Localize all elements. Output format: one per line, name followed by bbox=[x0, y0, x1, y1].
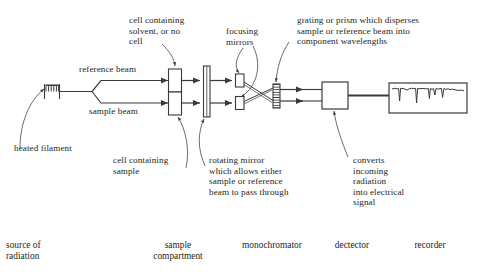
leader-cell-solvent bbox=[162, 44, 175, 66]
rotating-mirror bbox=[204, 66, 211, 117]
leader-detector bbox=[334, 111, 348, 157]
leader-cell-sample bbox=[178, 117, 188, 168]
ir-spectrometer-diagram: cell containing solvent, or no cell focu… bbox=[0, 0, 481, 278]
label-heated-filament: heated filament bbox=[14, 143, 72, 154]
reference-cell bbox=[169, 69, 182, 92]
focusing-mirror-upper bbox=[236, 74, 245, 87]
leader-focusing-mirrors-upper bbox=[236, 48, 243, 73]
source-beam-path bbox=[60, 81, 136, 104]
leader-rotating-mirror bbox=[199, 119, 205, 166]
label-rotating-mirror: rotating mirror which allows either samp… bbox=[209, 155, 289, 197]
grating-prism bbox=[273, 84, 280, 108]
beams-to-focusing-mirrors bbox=[210, 81, 232, 104]
detector-box bbox=[322, 82, 348, 109]
label-grating-or-prism: grating or prism which disperses sample … bbox=[297, 15, 419, 47]
recorder-chart bbox=[389, 83, 467, 113]
converging-beams-to-grating bbox=[244, 82, 273, 104]
category-sample-compartment: sample compartment bbox=[128, 240, 228, 262]
label-cell-containing-sample: cell containing sample bbox=[113, 155, 168, 176]
heated-filament-source bbox=[45, 84, 60, 99]
dispersed-beams-to-detector bbox=[280, 90, 322, 102]
leader-heated-filament bbox=[20, 89, 44, 148]
category-source-of-radiation: source of radiation bbox=[6, 240, 86, 262]
leader-grating bbox=[276, 42, 289, 82]
category-detector: dectector bbox=[320, 240, 384, 251]
label-reference-beam: reference beam bbox=[79, 64, 136, 75]
label-sample-beam: sample beam bbox=[89, 106, 138, 117]
category-recorder: recorder bbox=[398, 240, 462, 251]
label-focusing-mirrors: focusing mirrors bbox=[226, 26, 258, 47]
label-cell-containing-solvent: cell containing solvent, or no cell bbox=[129, 15, 184, 47]
label-detector-description: converts incoming radiation into electri… bbox=[353, 155, 404, 208]
focusing-mirror-lower bbox=[236, 97, 245, 110]
category-monochromator: monochromator bbox=[226, 240, 318, 251]
sample-cell bbox=[169, 92, 182, 115]
